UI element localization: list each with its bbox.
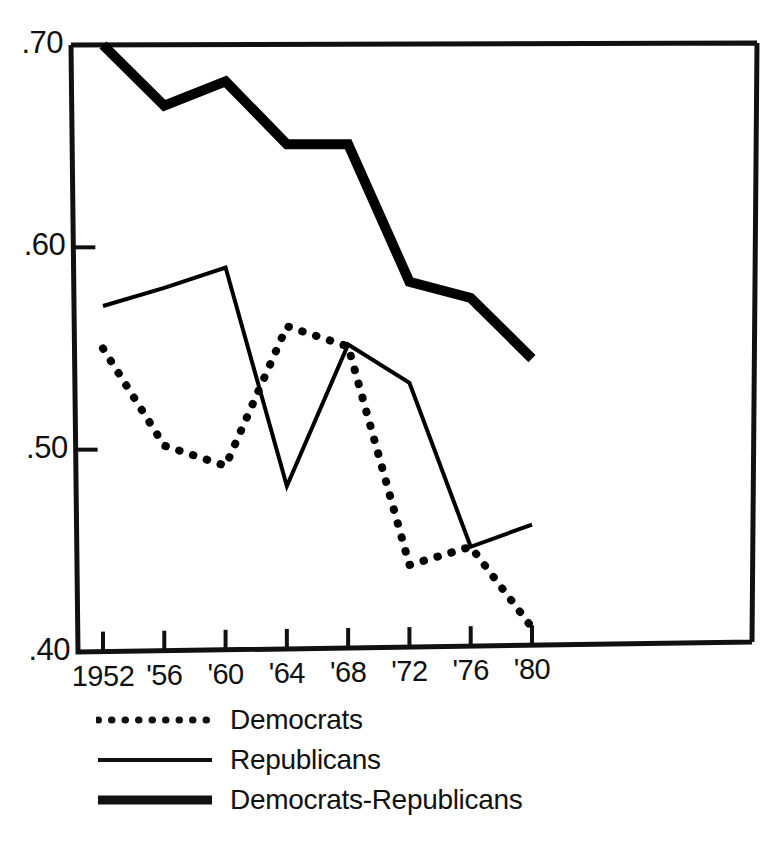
series-line-democrats (103, 326, 532, 627)
y-tick-label: .50 (2, 430, 68, 466)
y-tick-label: .40 (4, 632, 70, 668)
y-tick-label: .70 (0, 25, 63, 61)
legend-label-democrats: Democrats (230, 704, 363, 736)
x-tick-label: '60 (207, 658, 243, 691)
legend-label-democrats-republicans: Democrats-Republicans (230, 784, 523, 816)
legend-item-democrats-republicans: Democrats-Republicans (96, 780, 736, 820)
legend-swatch-thick-line-icon (96, 790, 214, 810)
legend-swatch-thin-line-icon (96, 750, 214, 770)
series-line-republicans (103, 268, 532, 547)
x-tick-label: '64 (269, 657, 305, 690)
y-tick-label: .60 (0, 227, 65, 263)
legend-swatch-dotted-icon (96, 710, 214, 730)
chart-legend: Democrats Republicans Democrats-Republic… (96, 700, 736, 820)
series-line-democrats-republicans (103, 45, 532, 359)
chart-figure: .70.60.50.40 1952'56'60'64'68'72'76'80 D… (0, 0, 783, 843)
legend-label-republicans: Republicans (230, 744, 381, 776)
x-tick-label: '80 (514, 653, 550, 686)
x-tick-label: '76 (453, 654, 489, 687)
axes-frame (71, 43, 757, 652)
legend-item-republicans: Republicans (96, 740, 736, 780)
x-tick-label: '68 (330, 656, 366, 689)
x-tick-label: '56 (146, 659, 182, 692)
x-tick-label: 1952 (72, 660, 135, 693)
data-series-layer (103, 45, 532, 628)
x-tick-label: '72 (391, 655, 427, 688)
legend-item-democrats: Democrats (96, 700, 736, 740)
